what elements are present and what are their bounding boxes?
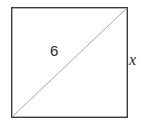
geometry-figure: 6 x (0, 0, 147, 129)
diagonal-line (12, 8, 127, 117)
side-length-label: x (129, 52, 136, 68)
figure-canvas (0, 0, 147, 129)
diagonal-length-label: 6 (50, 43, 58, 58)
